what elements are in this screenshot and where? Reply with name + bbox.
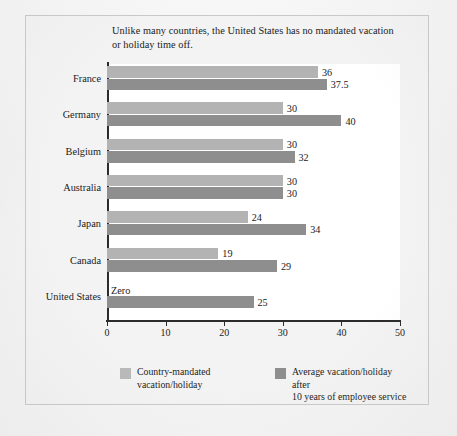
bar-value-australia-series1: 30 bbox=[287, 175, 297, 186]
bar-canada-series1 bbox=[107, 248, 218, 260]
legend-entry-1[interactable]: Country-mandated vacation/holiday bbox=[120, 366, 210, 391]
legend-label-1: Country-mandated vacation/holiday bbox=[137, 366, 210, 391]
x-axis-tick bbox=[224, 321, 225, 326]
bar-value-germany-series2: 40 bbox=[345, 115, 355, 126]
y-axis-label-australia: Australia bbox=[63, 181, 101, 192]
bar-germany-series2 bbox=[107, 115, 341, 127]
bar-value-canada-series2: 29 bbox=[281, 260, 291, 271]
bar-value-canada-series1: 19 bbox=[222, 248, 232, 259]
y-axis-label-germany: Germany bbox=[63, 109, 101, 120]
x-axis-tick-label: 20 bbox=[219, 327, 229, 338]
legend-label-2: Average vacation/holiday after 10 years … bbox=[292, 366, 410, 404]
bar-value-japan-series2: 34 bbox=[310, 224, 320, 235]
x-axis-tick bbox=[400, 321, 401, 326]
x-axis-tick bbox=[283, 321, 284, 326]
bar-france-series2 bbox=[107, 79, 327, 91]
bar-value-australia-series2: 30 bbox=[287, 188, 297, 199]
x-axis-tick-label: 10 bbox=[161, 327, 171, 338]
bar-australia-series2 bbox=[107, 187, 283, 199]
bar-value-japan-series1: 24 bbox=[252, 211, 262, 222]
legend-swatch-country-mandated bbox=[120, 368, 131, 379]
bar-belgium-series2 bbox=[107, 151, 295, 163]
figure-caption: Unlike many countries, the United States… bbox=[112, 24, 402, 52]
x-axis-line bbox=[106, 320, 401, 322]
bar-value-united-states-series1: Zero bbox=[111, 284, 130, 295]
x-axis-tick-label: 50 bbox=[395, 327, 405, 338]
bar-value-germany-series1: 30 bbox=[287, 103, 297, 114]
x-axis-tick-label: 0 bbox=[105, 327, 110, 338]
bar-value-france-series2: 37.5 bbox=[331, 79, 349, 90]
y-axis-label-canada: Canada bbox=[70, 254, 101, 265]
x-axis-tick-label: 30 bbox=[278, 327, 288, 338]
legend-entry-2[interactable]: Average vacation/holiday after 10 years … bbox=[275, 366, 410, 404]
bar-australia-series1 bbox=[107, 175, 283, 187]
chart-legend: Country-mandated vacation/holidayAverage… bbox=[120, 366, 410, 396]
y-axis-label-japan: Japan bbox=[78, 218, 101, 229]
bar-united-states-series2 bbox=[107, 296, 254, 308]
bar-france-series1 bbox=[107, 66, 318, 78]
y-axis-label-belgium: Belgium bbox=[66, 145, 101, 156]
bar-belgium-series1 bbox=[107, 139, 283, 151]
bar-value-france-series1: 36 bbox=[322, 66, 332, 77]
bar-value-belgium-series2: 32 bbox=[299, 151, 309, 162]
bar-germany-series1 bbox=[107, 102, 283, 114]
bar-japan-series2 bbox=[107, 224, 306, 236]
x-axis-tick bbox=[166, 321, 167, 326]
legend-swatch-average-after-10-years bbox=[275, 368, 286, 379]
y-axis-label-france: France bbox=[73, 73, 101, 84]
bar-japan-series1 bbox=[107, 211, 248, 223]
bar-canada-series2 bbox=[107, 260, 277, 272]
x-axis-tick-label: 40 bbox=[336, 327, 346, 338]
y-axis-label-united-states: United States bbox=[46, 290, 101, 301]
x-axis-tick bbox=[341, 321, 342, 326]
x-axis-tick bbox=[107, 321, 108, 326]
bar-value-belgium-series1: 30 bbox=[287, 139, 297, 150]
figure-page: Unlike many countries, the United States… bbox=[0, 0, 457, 436]
bar-value-united-states-series2: 25 bbox=[258, 297, 268, 308]
